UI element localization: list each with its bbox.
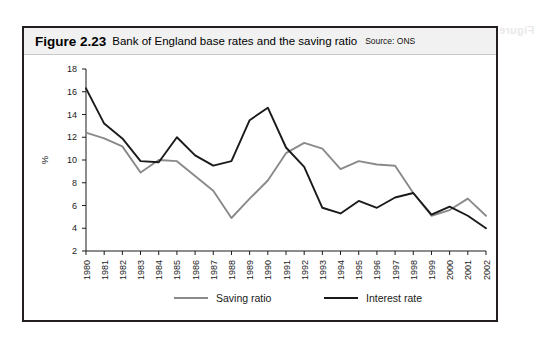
y-tick-label: 4 (72, 223, 77, 233)
x-tick-label: 1988 (227, 260, 237, 280)
x-tick-label: 1980 (82, 260, 92, 280)
x-tick-label: 1982 (118, 260, 128, 280)
y-tick-label: 10 (67, 155, 77, 165)
x-tick-label: 1993 (318, 260, 328, 280)
y-tick-label: 8 (72, 178, 77, 188)
x-tick-label: 1996 (372, 260, 382, 280)
x-tick-label: 1999 (427, 260, 437, 280)
x-tick-label: 1991 (282, 260, 292, 280)
x-tick-label: 1992 (300, 260, 310, 280)
x-tick-label: 1981 (100, 260, 110, 280)
x-tick-label: 1998 (409, 260, 419, 280)
figure-source: Source: ONS (365, 36, 415, 46)
x-tick-label: 2002 (482, 260, 492, 280)
y-axis-label: % (39, 155, 50, 164)
legend-label-interest-rate: Interest rate (366, 292, 422, 304)
x-axis-tick-marks (86, 251, 486, 255)
y-tick-label: 12 (67, 132, 77, 142)
x-tick-label: 1984 (154, 260, 164, 280)
figure-title-bar: Figure 2.23 Bank of England base rates a… (24, 28, 496, 55)
x-tick-label: 1994 (336, 260, 346, 280)
figure-title: Bank of England base rates and the savin… (112, 35, 357, 47)
y-axis-tick-marks (82, 69, 86, 251)
y-tick-label: 18 (67, 64, 77, 74)
x-tick-label: 1986 (191, 260, 201, 280)
x-axis-tick-labels: 1980198119821983198419851986198719881989… (82, 260, 492, 280)
y-tick-label: 6 (72, 201, 77, 211)
x-tick-label: 1997 (391, 260, 401, 280)
x-tick-label: 2000 (445, 260, 455, 280)
figure-panel: Figure 2.23 Bank of England base rates a… (22, 26, 498, 322)
x-tick-label: 1983 (136, 260, 146, 280)
y-tick-label: 2 (72, 246, 77, 256)
x-tick-label: 1987 (209, 260, 219, 280)
series-lines (86, 88, 486, 228)
x-tick-label: 1989 (245, 260, 255, 280)
y-tick-label: 16 (67, 87, 77, 97)
x-tick-label: 1985 (172, 260, 182, 280)
chart-area: 24681012141618 1980198119821983198419851… (24, 55, 496, 322)
y-tick-label: 14 (67, 110, 77, 120)
series-line-interest-rate (86, 88, 486, 228)
x-tick-label: 2001 (463, 260, 473, 280)
line-chart: 24681012141618 1980198119821983198419851… (24, 55, 496, 322)
legend-label-saving-ratio: Saving ratio (216, 292, 272, 304)
y-axis-tick-labels: 24681012141618 (67, 64, 77, 256)
x-tick-label: 1995 (354, 260, 364, 280)
figure-number: Figure 2.23 (35, 34, 106, 49)
chart-legend: Saving ratioInterest rate (174, 292, 422, 304)
x-tick-label: 1990 (263, 260, 273, 280)
